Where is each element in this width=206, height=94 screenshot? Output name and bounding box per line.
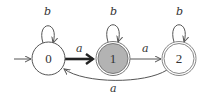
self-loop-1: b bbox=[107, 5, 120, 42]
state-1-label: 1 bbox=[110, 51, 117, 66]
transition-1-to-2: a bbox=[130, 42, 161, 59]
state-2-label: 2 bbox=[176, 51, 183, 66]
transition-1-to-2-label: a bbox=[142, 42, 149, 55]
automaton-diagram: b b b a a a 0 1 2 bbox=[0, 0, 206, 94]
self-loop-0: b bbox=[42, 5, 55, 43]
self-loop-0-label: b bbox=[44, 5, 51, 18]
self-loop-1-label: b bbox=[110, 5, 117, 18]
self-loop-2-label: b bbox=[176, 5, 183, 18]
state-1: 1 bbox=[96, 42, 130, 76]
transition-0-to-1-label: a bbox=[76, 42, 83, 55]
state-2: 2 bbox=[162, 42, 196, 76]
state-0-label: 0 bbox=[45, 51, 52, 66]
transition-0-to-1: a bbox=[65, 42, 93, 59]
state-0: 0 bbox=[32, 42, 65, 75]
transition-2-to-0-label: a bbox=[110, 82, 117, 94]
self-loop-2: b bbox=[173, 5, 186, 42]
